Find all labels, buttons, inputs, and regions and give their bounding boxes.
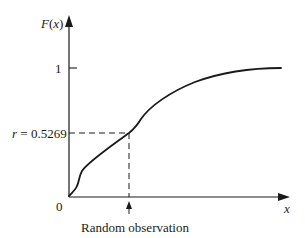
cdf-diagram: F(x) 1 r = 0.5269 0 x Random observation (0, 0, 305, 238)
x-axis-arrow-icon (278, 193, 290, 201)
y-axis (65, 15, 73, 197)
x-axis-label: x (283, 201, 290, 216)
x-axis (69, 193, 290, 201)
observation-label: Random observation (81, 220, 189, 235)
r-value-label: r = 0.5269 (12, 126, 67, 141)
y-axis-arrow-icon (65, 15, 73, 27)
origin-label: 0 (56, 199, 63, 214)
cdf-curve (69, 68, 281, 196)
observation-arrow-icon (126, 201, 132, 209)
y-axis-label: F(x) (40, 16, 63, 31)
tick-label-one: 1 (55, 61, 62, 76)
